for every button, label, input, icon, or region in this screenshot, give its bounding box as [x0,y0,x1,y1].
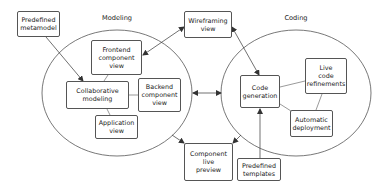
node-code-generation[interactable]: Code generation [240,75,280,108]
node-automatic-deployment[interactable]: Automatic deployment [290,110,333,137]
edge-metamodel-to-collab [46,37,83,81]
coding-region-label: Coding [284,14,307,22]
node-predefined-metamodel[interactable]: Predefined metamodel [17,11,60,37]
edge-live-deploy [316,94,322,110]
edge-coding-preview [233,135,241,143]
node-predefined-templates[interactable]: Predefined templates [237,158,281,181]
modeling-region-label: Modeling [102,14,132,22]
edge-wireframing-codegen [232,27,259,75]
edge-modeling-preview [172,135,184,143]
node-frontend-component-view[interactable]: Frontend component view [91,40,142,75]
node-wireframing-view[interactable]: Wireframing view [184,11,232,38]
node-application-view[interactable]: Application view [95,115,138,139]
node-backend-component-view[interactable]: Backend component view [138,78,181,112]
edge-codegen-live [280,81,305,87]
node-collaborative-modeling[interactable]: Collaborative modeling [66,81,129,109]
edge-frontend-wireframing [143,27,184,55]
node-live-code-refinements[interactable]: Live code refinements [305,58,347,94]
node-component-live-preview[interactable]: Component live preview [184,143,233,181]
